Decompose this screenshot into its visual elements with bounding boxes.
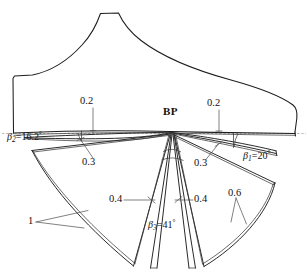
beta2-value: 16.2 — [21, 131, 39, 142]
beta3-angle-label: β3=41° — [148, 219, 175, 232]
beta2-degree: ° — [39, 130, 42, 139]
center-right-petal-left-edge — [173, 135, 189, 269]
thickness-label-top-right: 0.2 — [207, 98, 220, 109]
center-left-petal-left-edge — [151, 135, 172, 269]
thickness-label-mid-right: 0.3 — [194, 158, 207, 169]
beta2-angle-label: β2=16.2° — [7, 131, 42, 144]
thickness-label-inner-left: 0.4 — [109, 194, 122, 205]
leader-thickness-outer-right-a — [236, 198, 247, 224]
thickness-label-top-left: 0.2 — [80, 96, 93, 107]
figure-root: BP 0.2 0.2 0.3 0.3 0.4 0.4 0.6 1 β2=16.2… — [0, 0, 308, 279]
thickness-label-inner-right: 0.4 — [194, 194, 207, 205]
chord-label-left: 1 — [28, 216, 33, 227]
beta1-value: 20 — [257, 150, 267, 161]
thickness-label-mid-left: 0.3 — [82, 157, 95, 168]
left-petal-trailing-edge-inner — [135, 135, 169, 263]
branch-point-label: BP — [163, 106, 178, 117]
right-upper-vane-tip — [276, 151, 277, 156]
beta3-value: 41 — [162, 219, 172, 230]
left-petal-upper-edge-inner — [34, 135, 172, 152]
diagram-canvas — [0, 0, 308, 279]
leader-chord-left-b — [36, 222, 84, 228]
leader-thickness-mid-right — [206, 144, 219, 160]
center-right-petal-right-edge — [174, 135, 196, 269]
leader-thickness-outer-right-b — [231, 198, 236, 222]
left-petal-inner-curve — [34, 152, 136, 264]
beta1-angle-label: β1=20° — [243, 150, 270, 163]
beta3-degree: ° — [172, 218, 175, 227]
thickness-label-outer-right: 0.6 — [228, 188, 241, 199]
beta1-degree: ° — [267, 149, 270, 158]
upper-body-outline — [13, 13, 297, 133]
